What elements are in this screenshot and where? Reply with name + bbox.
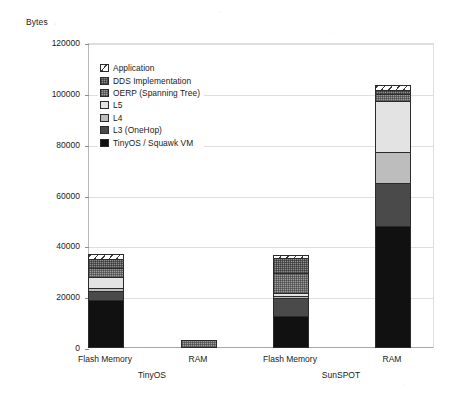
y-axis-tick-label: 120000	[0, 38, 80, 48]
bar-segment	[181, 340, 217, 348]
bar-stack	[375, 85, 411, 348]
legend-item: L4	[100, 112, 200, 124]
legend-swatch-icon	[100, 89, 109, 97]
bar-stack	[88, 254, 124, 348]
x-axis-group-label: TinyOS	[138, 370, 166, 380]
y-tick-mark	[85, 247, 89, 248]
legend-item-label: Application	[113, 63, 155, 73]
legend-item-label: L4	[113, 113, 122, 123]
bar-segment	[88, 277, 124, 288]
y-tick-mark	[85, 349, 89, 350]
bar-segment	[273, 255, 309, 258]
bar-segment	[273, 273, 309, 293]
bar-stack	[273, 255, 309, 348]
bar-segment	[88, 259, 124, 268]
legend-item-label: DDS Implementation	[113, 76, 191, 86]
bar-stack	[181, 340, 217, 348]
gridline	[89, 44, 433, 45]
x-axis-group-label: SunSPOT	[322, 370, 360, 380]
bar-segment	[375, 85, 411, 90]
y-axis-tick-label: 100000	[0, 89, 80, 99]
legend-swatch-icon	[100, 139, 109, 147]
chart-legend: ApplicationDDS ImplementationOERP (Spann…	[98, 60, 204, 152]
y-axis-tick-label: 60000	[0, 191, 80, 201]
bar-segment	[375, 101, 411, 152]
legend-swatch-icon	[100, 126, 109, 134]
y-axis-title: Bytes	[26, 17, 48, 27]
legend-item-label: OERP (Spanning Tree)	[113, 88, 200, 98]
bar-segment	[375, 90, 411, 94]
legend-item: OERP (Spanning Tree)	[100, 87, 200, 99]
legend-swatch-icon	[100, 101, 109, 109]
x-axis-category-label: Flash Memory	[78, 354, 132, 364]
y-tick-mark	[85, 146, 89, 147]
bar-segment	[273, 316, 309, 348]
legend-item: L3 (OneHop)	[100, 124, 200, 136]
legend-item-label: L5	[113, 100, 122, 110]
bar-segment	[88, 291, 124, 300]
legend-swatch-icon	[100, 77, 109, 85]
y-tick-mark	[85, 44, 89, 45]
y-tick-mark	[85, 95, 89, 96]
legend-item-label: L3 (OneHop)	[113, 125, 162, 135]
bar-segment	[375, 94, 411, 102]
legend-item: TinyOS / Squawk VM	[100, 136, 200, 148]
bar-segment	[273, 293, 309, 296]
x-axis-category-label: Flash Memory	[263, 354, 317, 364]
bar-segment	[273, 298, 309, 316]
y-axis-tick-label: 80000	[0, 140, 80, 150]
legend-item-label: TinyOS / Squawk VM	[113, 138, 193, 148]
stacked-bar-chart: Bytes ApplicationDDS ImplementationOERP …	[0, 0, 459, 401]
bar-segment	[273, 296, 309, 299]
bar-segment	[88, 254, 124, 259]
bar-segment	[375, 152, 411, 183]
legend-item: DDS Implementation	[100, 74, 200, 86]
y-axis-tick-label: 40000	[0, 241, 80, 251]
legend-item: L5	[100, 99, 200, 111]
x-axis-category-label: RAM	[383, 354, 402, 364]
bar-segment	[88, 288, 124, 291]
legend-item: Application	[100, 62, 200, 74]
legend-swatch-icon	[100, 114, 109, 122]
y-axis-tick-label: 20000	[0, 292, 80, 302]
bar-segment	[88, 300, 124, 348]
bar-segment	[88, 268, 124, 277]
y-axis-tick-label: 0	[0, 343, 80, 353]
x-axis-category-label: RAM	[189, 354, 208, 364]
legend-swatch-icon	[100, 64, 109, 72]
bar-segment	[273, 258, 309, 273]
bar-segment	[375, 183, 411, 226]
bar-segment	[375, 226, 411, 348]
y-tick-mark	[85, 197, 89, 198]
